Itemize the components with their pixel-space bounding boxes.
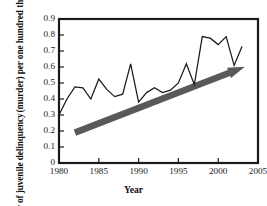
x-axis-label: Year: [0, 184, 267, 195]
x-tick-label: 1990: [122, 166, 156, 176]
x-tick-label: 2005: [241, 166, 267, 176]
chart-figure: Number of juvenile delinquency (murder) …: [0, 0, 267, 206]
axis-frame: [59, 19, 258, 163]
x-tick-label: 1995: [161, 166, 195, 176]
x-tick-label: 2000: [201, 166, 235, 176]
x-tick-label: 1980: [42, 166, 76, 176]
x-tick-label: 1985: [82, 166, 116, 176]
